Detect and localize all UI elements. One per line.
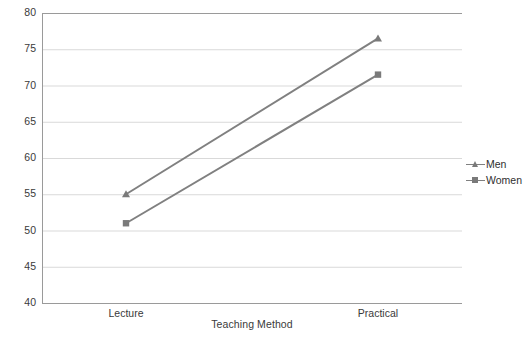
- y-tick-label: 75: [10, 42, 36, 54]
- legend-swatch-icon: [466, 174, 485, 186]
- data-point-women-practical: [375, 71, 381, 77]
- legend-item-men[interactable]: Men: [466, 157, 526, 171]
- line-chart: Cource Final Mark 404550556065707580 Lec…: [0, 0, 526, 338]
- legend-label: Men: [485, 158, 506, 170]
- plot-area: [42, 13, 462, 303]
- y-tick-label: 60: [10, 151, 36, 163]
- y-tick-label: 80: [10, 6, 36, 18]
- y-tick-label: 50: [10, 224, 36, 236]
- series-line-women: [126, 75, 378, 224]
- y-tick-label: 45: [10, 260, 36, 272]
- data-point-men-lecture: [122, 190, 130, 197]
- x-axis-title: Teaching Method: [42, 318, 462, 330]
- legend-swatch-icon: [466, 158, 485, 170]
- plot-svg: [42, 13, 462, 303]
- y-axis-tick-labels: 404550556065707580: [6, 0, 36, 338]
- y-tick-label: 55: [10, 187, 36, 199]
- y-tick-label: 65: [10, 115, 36, 127]
- data-point-men-practical: [374, 34, 382, 41]
- legend-item-women[interactable]: Women: [466, 173, 526, 187]
- legend-label: Women: [485, 174, 522, 186]
- chart-legend: MenWomen: [466, 157, 526, 189]
- data-point-women-lecture: [123, 220, 129, 226]
- series-line-men: [126, 38, 378, 194]
- y-tick-label: 70: [10, 79, 36, 91]
